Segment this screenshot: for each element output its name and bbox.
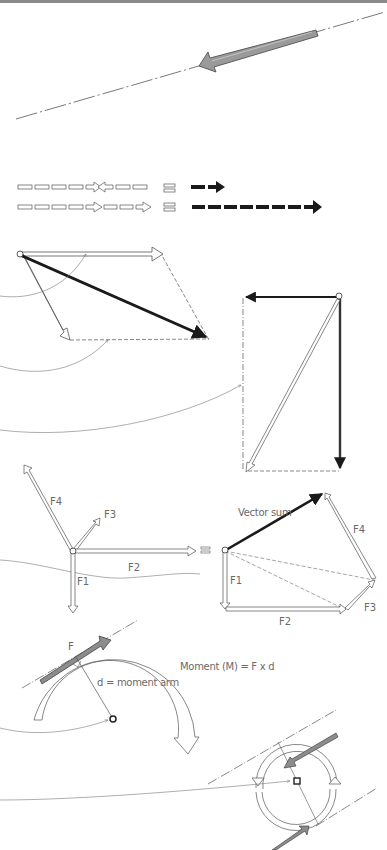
label-f4: F4	[353, 524, 365, 535]
force-polygon-section: Vector sum F4 F3 F2 F1	[220, 493, 376, 627]
equals-sign-1	[164, 184, 175, 192]
moment-arm-line	[76, 657, 113, 719]
rectangle-components-section	[243, 293, 342, 472]
label-f2: F2	[279, 616, 291, 627]
force-diagram: F4 F3 F2 F1 Vector sum F4 F3 F2 F1	[0, 0, 387, 850]
label-f1: F1	[230, 575, 242, 586]
concurrent-forces-section: F4 F3 F2 F1	[0, 465, 210, 613]
polygon-f1	[220, 552, 230, 609]
equals-sign-3	[201, 547, 210, 553]
label-f: F	[68, 641, 74, 652]
label-f4: F4	[50, 496, 62, 507]
force-arrow-f4	[24, 465, 73, 550]
label-vector-sum: Vector sum	[238, 507, 291, 518]
couple-force-upper	[284, 733, 338, 768]
parallelogram-section	[0, 247, 241, 433]
collinear-row-2	[18, 202, 151, 212]
label-f1: F1	[77, 576, 89, 587]
equals-sign-2	[164, 203, 175, 211]
collinear-addition-section	[18, 181, 322, 214]
leader-line	[0, 254, 86, 297]
polygon-f4	[325, 493, 376, 579]
leader-line	[0, 720, 108, 733]
resultant-row-2	[192, 200, 322, 214]
origin-point	[70, 548, 76, 554]
couple-force-lower	[272, 826, 309, 850]
leader-line	[0, 560, 200, 578]
collinear-row-1	[18, 182, 147, 192]
label-moment-arm: d = moment arm	[97, 677, 179, 688]
construction-line	[225, 551, 374, 580]
leader-line	[0, 340, 108, 371]
origin-point	[17, 251, 23, 257]
moment-curved-arrow	[34, 660, 199, 754]
force-arrow-gray	[199, 30, 318, 72]
construction-line	[70, 339, 209, 340]
origin-point	[336, 293, 342, 299]
resultant-row-1	[191, 181, 225, 193]
polygon-f2	[226, 604, 346, 614]
pivot-point	[110, 716, 116, 722]
force-arrow-f3	[73, 518, 100, 552]
moment-section: F d = moment arm Moment (M) = F x d	[0, 620, 274, 754]
line-of-action-section	[16, 12, 385, 119]
resultant-arrow	[20, 255, 206, 337]
line-of-action-lower	[316, 788, 377, 826]
vector-sum-arrow	[226, 494, 322, 550]
label-moment-formula: Moment (M) = F x d	[180, 661, 274, 672]
leader-line	[0, 385, 241, 433]
label-f3: F3	[364, 602, 376, 613]
pivot-point	[294, 778, 300, 784]
label-f2: F2	[128, 562, 140, 573]
force-arrow-f2	[75, 546, 196, 556]
force-arrow-horizontal	[22, 247, 163, 261]
origin-point	[222, 547, 228, 553]
label-f3: F3	[104, 509, 116, 520]
resultant-open-diagonal	[246, 299, 340, 472]
leader-line	[0, 781, 290, 800]
construction-line	[225, 551, 340, 607]
